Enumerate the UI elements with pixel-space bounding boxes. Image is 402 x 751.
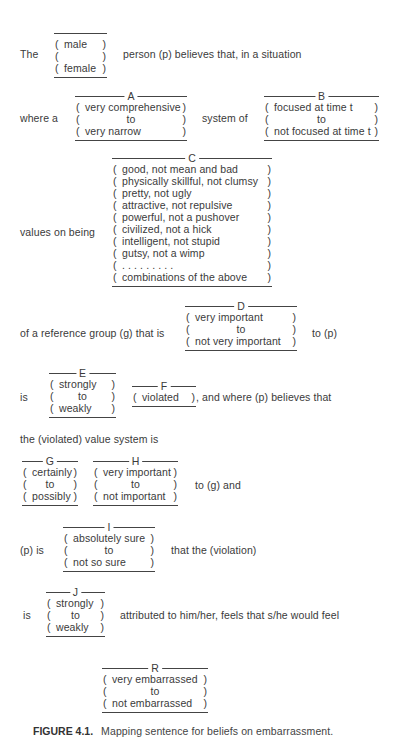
facet-E-bottom-rule (49, 417, 116, 418)
sentence-to-g-and: to (g) and (195, 479, 241, 491)
facet-C-row: (pretty, not ugly) (112, 187, 272, 199)
facet-C-row: (civilized, not a hick) (112, 223, 272, 235)
facet-C-bottom-rule (112, 286, 272, 287)
facet-A-row: (very narrow) (75, 125, 187, 137)
facet-R-row: (to) (102, 685, 208, 697)
facet-D-row: (to) (185, 323, 297, 335)
facet-C-row: (intelligent, not stupid) (112, 235, 272, 247)
facet-G-row: (certainly) (22, 466, 78, 478)
facet-E: E (strongly) (to) (weakly) (49, 368, 116, 418)
facet-C-row: (good, not mean and bad) (112, 163, 272, 175)
facet-A-bottom-rule (75, 140, 187, 141)
sentence-and-where: , and where (p) believes that (196, 391, 331, 403)
facet-I-row: (to) (63, 544, 155, 556)
facet-gender-row: (male) (54, 38, 107, 50)
facet-gender-top-rule (54, 28, 107, 38)
sentence-attributed: attributed to him/her, feels that s/he w… (120, 609, 339, 621)
facet-B-bottom-rule (264, 140, 379, 141)
facet-C-row: (gutsy, not a wimp) (112, 247, 272, 259)
facet-gender: (male) () (female) (54, 28, 107, 78)
facet-C-header: C (112, 153, 272, 163)
facet-I-bottom-rule (63, 571, 155, 572)
facet-gender-row: () (54, 50, 107, 62)
facet-D-bottom-rule (185, 350, 297, 351)
facet-B-header: B (264, 91, 379, 101)
facet-G-bottom-rule (22, 505, 78, 506)
facet-B-row: (not focused at time t) (264, 125, 379, 137)
facet-E-row: (strongly) (49, 378, 116, 390)
sentence-p-is: (p) is (20, 544, 44, 556)
figure-caption-text: Mapping sentence for beliefs on embarras… (101, 725, 333, 737)
sentence-person-believes: person (p) believes that, in a situation (123, 48, 302, 60)
facet-I: I (absolutely sure) (to) (not so sure) (63, 522, 155, 572)
sentence-to-p: to (p) (312, 327, 337, 339)
facet-F: F (violated) (132, 381, 196, 407)
sentence-is-1: is (20, 391, 28, 403)
facet-J-row: (to) (46, 609, 105, 621)
figure-caption: FIGURE 4.1.Mapping sentence for beliefs … (33, 725, 333, 737)
facet-C: C (good, not mean and bad) (physically s… (112, 153, 272, 287)
facet-D-row: (not very important) (185, 335, 297, 347)
facet-F-row: (violated) (132, 391, 196, 403)
facet-I-header: I (63, 522, 155, 532)
facet-H-header: H (93, 456, 178, 466)
facet-H-row: (to) (93, 478, 178, 490)
facet-J-row: (strongly) (46, 597, 105, 609)
facet-C-row: (powerful, not a pushover) (112, 211, 272, 223)
facet-gender-bottom-rule (54, 77, 107, 78)
facet-H: H (very important) (to) (not important) (93, 456, 178, 506)
sentence-is-2: is (23, 609, 31, 621)
figure-caption-label: FIGURE 4.1. (33, 725, 93, 737)
facet-A: A (very comprehensive) (to) (very narrow… (75, 91, 187, 141)
facet-B-row: (focused at time t) (264, 101, 379, 113)
facet-A-header: A (75, 91, 187, 101)
facet-J-bottom-rule (46, 636, 105, 637)
facet-R-row: (very embarrassed) (102, 673, 208, 685)
facet-gender-row: (female) (54, 62, 107, 74)
facet-J-header: J (46, 587, 105, 597)
facet-E-row: (to) (49, 390, 116, 402)
facet-C-row: (physically skillful, not clumsy) (112, 175, 272, 187)
facet-A-row: (to) (75, 113, 187, 125)
facet-R-bottom-rule (102, 712, 208, 713)
sentence-system-of: system of (202, 112, 248, 124)
facet-H-row: (not important) (93, 490, 178, 502)
facet-I-row: (absolutely sure) (63, 532, 155, 544)
facet-I-row: (not so sure) (63, 556, 155, 568)
facet-C-row: (combinations of the above) (112, 271, 272, 283)
sentence-reference-group: of a reference group (g) that is (20, 327, 164, 339)
facet-H-bottom-rule (93, 505, 178, 506)
facet-A-row: (very comprehensive) (75, 101, 187, 113)
facet-C-row: (attractive, not repulsive) (112, 199, 272, 211)
sentence-the: The (20, 48, 38, 60)
sentence-that-the-violation: that the (violation) (171, 544, 256, 556)
facet-J-row: (weakly) (46, 621, 105, 633)
facet-G: G (certainly) (to) (possibly) (22, 456, 78, 506)
facet-F-header: F (132, 381, 196, 391)
facet-D-row: (very important) (185, 311, 297, 323)
facet-G-row: (to) (22, 478, 78, 490)
facet-F-bottom-rule (132, 406, 196, 407)
facet-E-row: (weakly) (49, 402, 116, 414)
facet-R-row: (not embarrassed) (102, 697, 208, 709)
facet-E-header: E (49, 368, 116, 378)
facet-C-row: (. . . . . . . . .) (112, 259, 272, 271)
facet-H-row: (very important) (93, 466, 178, 478)
sentence-values-on-being: values on being (20, 226, 95, 238)
facet-G-row: (possibly) (22, 490, 78, 502)
facet-B-row: (to) (264, 113, 379, 125)
facet-R: R (very embarrassed) (to) (not embarrass… (102, 663, 208, 713)
facet-R-header: R (102, 663, 208, 673)
sentence-violated-value-system: the (violated) value system is (20, 433, 158, 445)
sentence-where-a: where a (20, 112, 58, 124)
facet-D: D (very important) (to) (not very import… (185, 301, 297, 351)
facet-J: J (strongly) (to) (weakly) (46, 587, 105, 637)
facet-G-header: G (22, 456, 78, 466)
facet-B: B (focused at time t) (to) (not focused … (264, 91, 379, 141)
facet-D-header: D (185, 301, 297, 311)
